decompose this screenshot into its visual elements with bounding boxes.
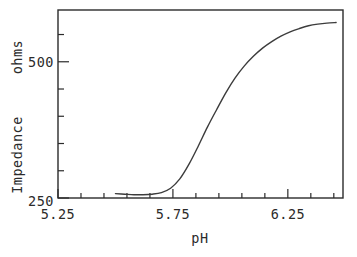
plot-frame bbox=[58, 10, 343, 198]
y-axis-title-impedance: Impedance bbox=[9, 116, 25, 194]
x-tick-label-2: 5.75 bbox=[156, 206, 191, 222]
y-tick-label-250: 250 bbox=[28, 193, 54, 209]
x-axis-title: pH bbox=[191, 230, 208, 246]
x-tick-label-3: 6.25 bbox=[271, 206, 306, 222]
y-axis-title-ohms: ohms bbox=[9, 40, 25, 75]
impedance-ph-line-chart: 5.25 5.75 6.25 500 250 pH Impedance ohms bbox=[0, 0, 357, 257]
y-tick-label-500: 500 bbox=[28, 54, 54, 70]
chart-figure: 5.25 5.75 6.25 500 250 pH Impedance ohms bbox=[0, 0, 357, 257]
